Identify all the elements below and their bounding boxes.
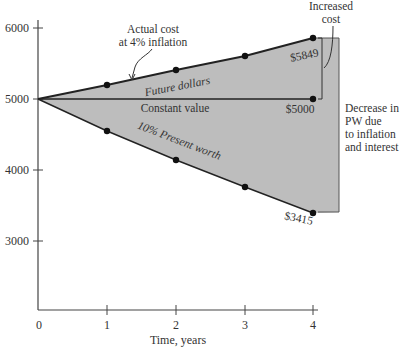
xtick-1: 1: [104, 318, 110, 332]
constant-value-label: Constant value: [141, 102, 210, 114]
decrease-label-4: and interest: [345, 141, 399, 153]
xtick-3: 3: [242, 318, 248, 332]
ytick-6000: 6000: [5, 21, 29, 35]
decrease-label-3: to inflation: [345, 128, 396, 140]
x-axis-label: Time, years: [150, 333, 207, 347]
shaded-region: [38, 38, 339, 213]
actual-cost-label-1: Actual cost: [127, 23, 180, 35]
ytick-3000: 3000: [5, 234, 29, 248]
actual-cost-label-2: at 4% inflation: [119, 36, 188, 48]
x-ticks: 0 1 2 3 4 Time, years: [36, 305, 316, 347]
end-constant-label: $5000: [286, 103, 315, 115]
y-ticks: 6000 5000 4000 3000: [5, 21, 43, 248]
xtick-4: 4: [310, 318, 316, 332]
increased-cost-label-1: Increased: [309, 0, 353, 12]
ytick-4000: 4000: [5, 163, 29, 177]
xtick-0: 0: [36, 318, 42, 332]
ytick-5000: 5000: [5, 92, 29, 106]
xtick-2: 2: [173, 318, 179, 332]
increased-cost-label-2: cost: [322, 13, 341, 25]
decrease-label-1: Decrease in: [345, 102, 399, 114]
decrease-label-2: PW due: [345, 115, 382, 127]
chart: 6000 5000 4000 3000 0 1 2 3 4 Time, year…: [0, 0, 400, 354]
